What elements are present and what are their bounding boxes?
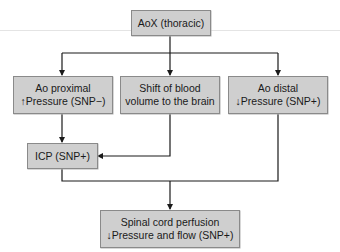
node-ao-proximal: Ao proximal ↑Pressure (SNP−) [13, 76, 113, 114]
node-label: Shift of blood [139, 82, 200, 95]
node-label: Spinal cord perfusion [121, 216, 220, 229]
node-label: AoX (thoracic) [138, 17, 205, 30]
node-label: Ao proximal [35, 82, 90, 95]
node-spinal-cord-perfusion: Spinal cord perfusion ↓Pressure and flow… [100, 210, 240, 248]
flowchart: AoX (thoracic) Ao proximal ↑Pressure (SN… [0, 0, 340, 252]
node-aox-thoracic: AoX (thoracic) [131, 10, 211, 36]
node-shift-blood-volume: Shift of blood volume to the brain [120, 76, 220, 114]
node-label: ↓Pressure (SNP+) [236, 95, 321, 108]
node-label: Ao distal [258, 82, 298, 95]
node-icp: ICP (SNP+) [27, 143, 98, 169]
node-label: volume to the brain [125, 95, 214, 108]
node-label: ICP (SNP+) [35, 150, 90, 163]
node-label: ↑Pressure (SNP−) [21, 95, 106, 108]
node-ao-distal: Ao distal ↓Pressure (SNP+) [228, 76, 328, 114]
node-label: ↓Pressure and flow (SNP+) [107, 229, 234, 242]
